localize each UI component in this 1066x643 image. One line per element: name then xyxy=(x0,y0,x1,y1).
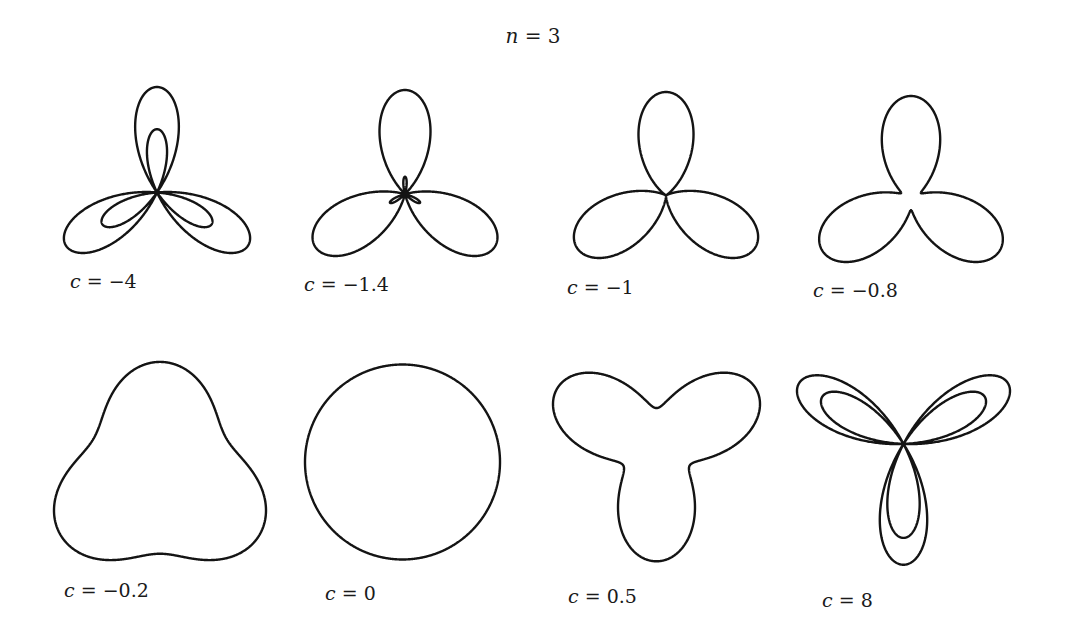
panel-label: c = −1 xyxy=(567,276,634,298)
panel-label: c = −0.8 xyxy=(813,279,898,301)
label-variable: c xyxy=(325,582,336,604)
label-value: = −1.4 xyxy=(315,273,389,295)
polar-curves-figure: n = 3 c = −4 c = −1.4 c = −1 c = −0.8 c … xyxy=(0,0,1066,643)
curve-c-neg4 xyxy=(64,87,250,253)
panel-label: c = 8 xyxy=(822,589,873,611)
label-value: = 0 xyxy=(336,582,376,604)
label-variable: c xyxy=(70,270,81,292)
curve-c-neg1-4 xyxy=(313,90,498,256)
label-variable: c xyxy=(567,276,578,298)
label-variable: c xyxy=(568,585,579,607)
panel-label: c = −4 xyxy=(70,270,137,292)
label-variable: c xyxy=(64,579,75,601)
label-variable: c xyxy=(304,273,315,295)
curves-canvas xyxy=(0,0,1066,643)
panel-label: c = 0.5 xyxy=(568,585,637,607)
label-value: = 0.5 xyxy=(579,585,637,607)
panel-label: c = 0 xyxy=(325,582,376,604)
curve-c-neg0-8 xyxy=(819,96,1003,262)
curve-c-8 xyxy=(797,375,1010,565)
curve-c-0 xyxy=(305,365,500,560)
label-value: = −0.2 xyxy=(75,579,149,601)
panel-label: c = −1.4 xyxy=(304,273,389,295)
label-value: = −0.8 xyxy=(824,279,898,301)
label-value: = 8 xyxy=(833,589,873,611)
label-variable: c xyxy=(813,279,824,301)
curve-c-0-5 xyxy=(553,373,760,562)
label-variable: c xyxy=(822,589,833,611)
curve-c-neg0-2 xyxy=(54,362,266,560)
panel-label: c = −0.2 xyxy=(64,579,149,601)
label-value: = −1 xyxy=(578,276,634,298)
label-value: = −4 xyxy=(81,270,137,292)
curve-c-neg1 xyxy=(574,92,758,258)
